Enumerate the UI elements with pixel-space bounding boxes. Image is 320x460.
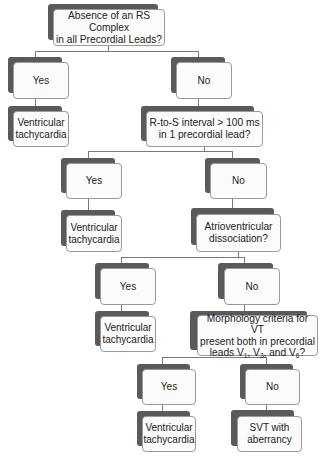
result-text-line2: tachycardia	[143, 434, 194, 446]
result-text-line1: Ventricular	[15, 117, 66, 129]
connector	[162, 404, 163, 411]
answer-box: Yes	[142, 369, 196, 405]
answer-box: No	[176, 62, 232, 99]
question-box: Absence of an RS Complex in all Precordi…	[53, 9, 165, 46]
connector	[35, 98, 36, 106]
result-text-line1: Ventricular	[143, 422, 194, 434]
connector	[88, 151, 233, 152]
question-box: Morphology criteria for VT present both …	[197, 315, 318, 356]
connector	[232, 198, 233, 208]
result-text-line1: Ventricular	[102, 322, 153, 334]
connector	[162, 357, 163, 364]
result-box: Ventricular tachycardia	[100, 316, 156, 352]
question-text-line2: in 1 precordial lead?	[149, 129, 259, 141]
connector	[88, 151, 89, 158]
connector	[121, 257, 245, 258]
result-text-line2: tachycardia	[68, 234, 119, 246]
result-text-line2: aberrancy	[247, 434, 291, 446]
question-text-line1: Atrioventricular	[205, 221, 273, 233]
result-box: Ventricular tachycardia	[13, 111, 69, 147]
question-text-line1: Morphology criteria for VT	[200, 313, 315, 336]
result-box: SVT with aberrancy	[237, 416, 302, 452]
question-text-line1: Absence of an RS Complex	[56, 10, 162, 34]
result-box: Ventricular tachycardia	[66, 215, 122, 252]
result-text-line1: SVT with	[247, 422, 291, 434]
question-text-line2: present both in precordial	[200, 336, 315, 348]
connector	[198, 98, 199, 106]
question-text-line3: leads V1, V2, and V6?	[200, 347, 315, 359]
answer-box: Yes	[66, 163, 122, 199]
answer-box: No	[210, 163, 267, 199]
question-box: Atrioventricular dissociation?	[196, 214, 281, 252]
question-text-line1: R-to-S interval > 100 ms	[149, 117, 259, 129]
connector	[35, 51, 199, 52]
answer-box: No	[245, 369, 300, 405]
question-text-line2: dissociation?	[205, 233, 273, 245]
answer-box: No	[224, 268, 280, 305]
answer-box: Yes	[13, 62, 69, 99]
connector	[121, 304, 122, 311]
question-box: R-to-S interval > 100 ms in 1 precordial…	[146, 111, 263, 147]
connector	[232, 151, 233, 158]
result-text-line2: tachycardia	[102, 334, 153, 346]
result-box: Ventricular tachycardia	[142, 416, 196, 452]
result-text-line1: Ventricular	[68, 222, 119, 234]
connector	[88, 198, 89, 210]
question-text-line2: in all Precordial Leads?	[56, 34, 162, 46]
connector	[244, 304, 245, 311]
answer-box: Yes	[100, 268, 156, 305]
result-text-line2: tachycardia	[15, 129, 66, 141]
